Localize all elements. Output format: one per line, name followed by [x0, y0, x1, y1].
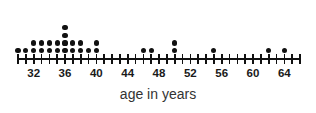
axis-tick: [88, 54, 90, 64]
data-dot: [31, 40, 36, 45]
axis-tick: [291, 54, 293, 64]
data-dot: [149, 48, 154, 53]
data-dot: [31, 48, 36, 53]
axis-tick: [49, 54, 51, 64]
axis-tick: [111, 54, 113, 64]
data-dot: [266, 48, 271, 53]
axis-tick: [72, 54, 74, 64]
data-dot: [141, 48, 146, 53]
axis-tick: [17, 54, 19, 64]
axis-title: age in years: [0, 86, 316, 102]
axis-tick-label: 52: [177, 67, 203, 79]
axis-tick: [284, 54, 286, 64]
data-dot: [282, 48, 287, 53]
axis-tick: [268, 54, 270, 64]
axis-tick: [150, 54, 152, 64]
axis-tick: [260, 54, 262, 64]
axis-tick: [237, 54, 239, 64]
data-dot: [47, 40, 52, 45]
axis-tick-label: 64: [271, 67, 297, 79]
data-dot: [78, 40, 83, 45]
data-dot: [39, 40, 44, 45]
axis-tick: [96, 54, 98, 64]
axis-tick: [127, 54, 129, 64]
data-dot: [172, 40, 177, 45]
axis-tick: [229, 54, 231, 64]
axis-tick: [174, 54, 176, 64]
data-dot: [62, 48, 67, 53]
axis-tick: [158, 54, 160, 64]
data-dot: [94, 40, 99, 45]
axis-tick-label: 48: [146, 67, 172, 79]
axis-tick: [33, 54, 35, 64]
axis-tick: [64, 54, 66, 64]
axis-tick: [41, 54, 43, 64]
axis-tick: [143, 54, 145, 64]
axis-tick: [299, 54, 301, 64]
axis-tick: [197, 54, 199, 64]
data-dot: [62, 33, 67, 38]
data-dot: [55, 48, 60, 53]
axis-tick-label: 32: [21, 67, 47, 79]
dot-plot-chart: 323640444852566064 age in years: [0, 0, 316, 113]
data-dot: [62, 25, 67, 30]
axis-tick: [119, 54, 121, 64]
data-dot: [23, 48, 28, 53]
axis-tick: [182, 54, 184, 64]
axis-tick: [221, 54, 223, 64]
data-dot: [39, 48, 44, 53]
axis-tick: [135, 54, 137, 64]
data-dot: [15, 48, 20, 53]
data-dot: [70, 40, 75, 45]
axis-tick: [80, 54, 82, 64]
axis-tick: [56, 54, 58, 64]
data-dot: [172, 48, 177, 53]
axis-tick: [244, 54, 246, 64]
data-dot: [94, 48, 99, 53]
data-dot: [78, 48, 83, 53]
data-dot: [55, 40, 60, 45]
axis-tick: [25, 54, 27, 64]
axis-tick-label: 44: [115, 67, 141, 79]
axis-tick-label: 36: [52, 67, 78, 79]
axis-tick-label: 56: [209, 67, 235, 79]
axis-tick: [205, 54, 207, 64]
axis-tick: [166, 54, 168, 64]
axis-tick: [213, 54, 215, 64]
data-dot: [62, 40, 67, 45]
axis-tick: [252, 54, 254, 64]
axis-tick-label: 40: [83, 67, 109, 79]
axis-tick: [190, 54, 192, 64]
axis-tick-label: 60: [240, 67, 266, 79]
axis-tick: [103, 54, 105, 64]
data-dot: [70, 48, 75, 53]
data-dot: [211, 48, 216, 53]
data-dot: [86, 48, 91, 53]
axis-tick: [276, 54, 278, 64]
data-dot: [47, 48, 52, 53]
